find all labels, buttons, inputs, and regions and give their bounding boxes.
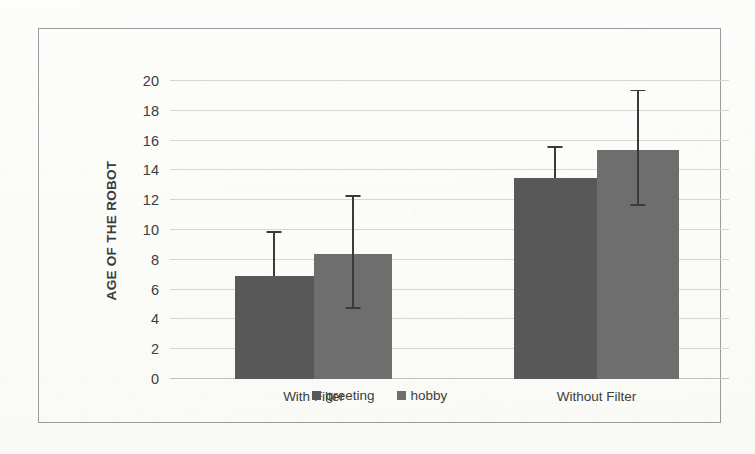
y-axis-tick-label: 6 bbox=[151, 282, 159, 298]
y-axis-tick-label: 16 bbox=[143, 133, 159, 149]
y-axis-title-label: AGE OF THE ROBOT bbox=[105, 160, 120, 300]
legend-swatch-icon bbox=[397, 391, 406, 400]
legend-swatch-icon bbox=[312, 391, 321, 400]
error-bar-hobby-with-filter bbox=[352, 197, 354, 309]
y-axis-tick-label: 10 bbox=[143, 222, 159, 238]
legend-item-hobby: hobby bbox=[397, 388, 448, 403]
error-bar-cap-lower bbox=[630, 204, 645, 206]
y-axis-tick-label: 4 bbox=[151, 311, 159, 327]
error-bar-greeting-with-filter bbox=[273, 233, 275, 276]
legend-label: hobby bbox=[411, 388, 448, 403]
legend-item-greeting: greeting bbox=[312, 388, 375, 403]
gridline bbox=[170, 80, 729, 81]
chart-frame: AGE OF THE ROBOT 02468101214161820 With … bbox=[38, 28, 721, 423]
y-axis-tick-label: 14 bbox=[143, 162, 159, 178]
bar-greeting-without-filter bbox=[514, 178, 597, 379]
scanned-page-background: AGE OF THE ROBOT 02468101214161820 With … bbox=[0, 0, 755, 454]
y-axis-tick-label: 0 bbox=[151, 371, 159, 387]
error-bar-greeting-without-filter bbox=[554, 148, 556, 178]
error-bar-cap-upper bbox=[630, 90, 645, 92]
error-bar-hobby-without-filter bbox=[637, 91, 639, 206]
error-bar-cap-upper bbox=[345, 195, 360, 197]
y-axis-title: AGE OF THE ROBOT bbox=[101, 81, 123, 379]
gridline bbox=[170, 140, 729, 141]
y-axis-tick-label: 2 bbox=[151, 341, 159, 357]
error-bar-cap-upper bbox=[548, 146, 563, 148]
y-axis-tick-label: 8 bbox=[151, 252, 159, 268]
gridline bbox=[170, 110, 729, 111]
y-axis-tick-label: 12 bbox=[143, 192, 159, 208]
plot-area: 02468101214161820 With FilterWithout Fil… bbox=[170, 81, 729, 379]
error-bar-cap-lower bbox=[345, 307, 360, 309]
legend-label: greeting bbox=[326, 388, 375, 403]
chart-legend: greetinghobby bbox=[38, 388, 721, 403]
y-axis-tick-label: 18 bbox=[143, 103, 159, 119]
y-axis-tick-label: 20 bbox=[143, 73, 159, 89]
bar-greeting-with-filter bbox=[235, 276, 314, 379]
error-bar-cap-upper bbox=[267, 231, 282, 233]
